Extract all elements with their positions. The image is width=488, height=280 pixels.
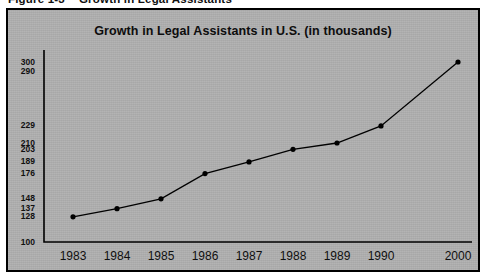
figure-caption-number: Figure 1-3 [8,0,65,5]
figure-caption: Figure 1-3Growth in Legal Assistants [8,0,232,7]
chart-axes [44,50,472,242]
data-point-marker[interactable] [158,196,163,201]
x-axis-tick-label: 1986 [183,249,227,263]
x-axis-tick-label: 1987 [227,249,271,263]
y-axis-tick-label: 229 [21,121,35,130]
chart-plot-area: 3002902292102031891761481371281001983198… [8,10,478,270]
figure-caption-text: Growth in Legal Assistants [79,0,232,5]
data-point-marker[interactable] [70,214,75,219]
x-axis-tick-label: 1988 [271,249,315,263]
data-point-marker[interactable] [378,123,383,128]
y-axis-tick-label: 148 [21,194,35,203]
data-point-marker[interactable] [202,171,207,176]
figure-box: Growth in Legal Assistants in U.S. (in t… [6,8,480,272]
y-axis-tick-label: 100 [21,238,35,247]
y-axis-tick-label: 189 [21,157,35,166]
x-axis-tick-label: 1985 [139,249,183,263]
x-axis-tick-label: 2000 [436,249,480,263]
data-series-line [73,62,458,217]
data-point-marker[interactable] [246,159,251,164]
y-axis-tick-label: 128 [21,212,35,221]
chart-title: Growth in Legal Assistants in U.S. (in t… [8,24,478,38]
x-axis-tick-label: 1989 [315,249,359,263]
y-axis-tick-label: 203 [21,145,35,154]
x-axis-tick-label: 1990 [359,249,403,263]
line-chart-svg [8,10,478,270]
x-axis-tick-label: 1984 [95,249,139,263]
data-point-marker[interactable] [455,59,460,64]
data-point-marker[interactable] [290,147,295,152]
data-point-marker[interactable] [334,140,339,145]
y-axis-tick-label: 176 [21,169,35,178]
x-axis-tick-label: 1983 [51,249,95,263]
data-point-marker[interactable] [114,206,119,211]
y-axis-tick-label: 290 [21,67,35,76]
